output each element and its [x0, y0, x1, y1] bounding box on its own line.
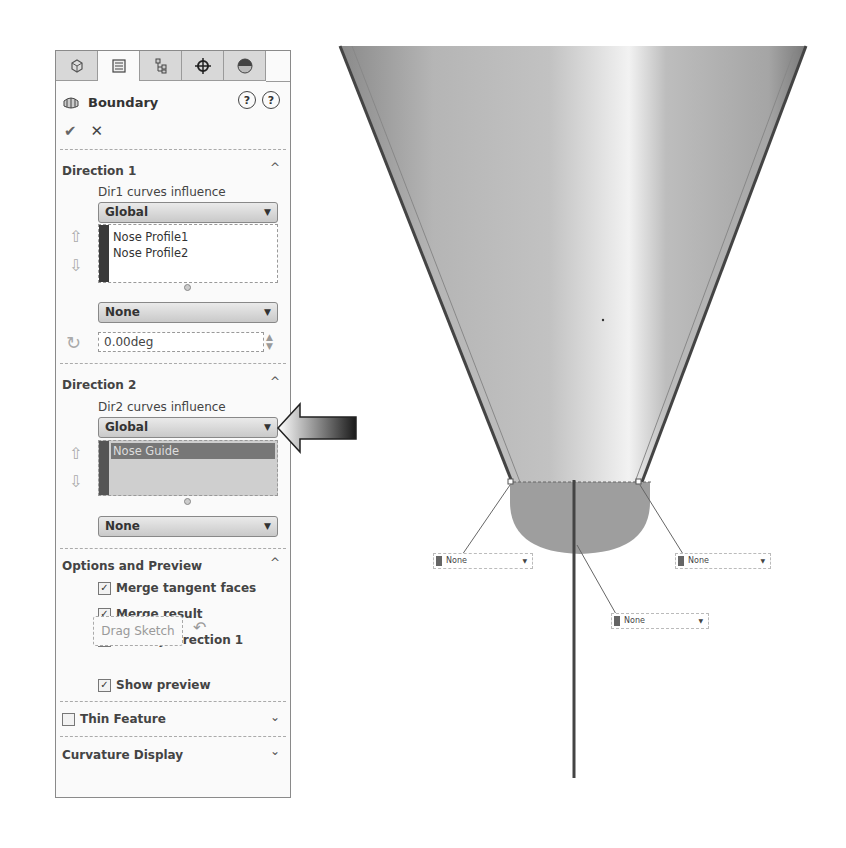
crosshair-icon [194, 57, 212, 75]
collapse-caret-icon[interactable]: ^ [270, 556, 280, 570]
curvature-display-header[interactable]: Curvature Display [62, 748, 183, 762]
merge-tangent-checkbox[interactable]: ✓ Merge tangent faces [98, 581, 256, 595]
tab-display-manager[interactable] [224, 51, 266, 81]
tangency-callout-right[interactable]: None ▼ [675, 553, 771, 569]
undo-drag-icon[interactable]: ↶ [193, 618, 206, 637]
help-icon[interactable]: ? [262, 91, 280, 109]
move-down-icon[interactable]: ⇩ [69, 472, 82, 491]
dir2-tangency-select[interactable]: None ▼ [98, 516, 278, 537]
list-item[interactable]: Nose Profile1 [113, 229, 277, 245]
rotate-angle-icon: ↻ [66, 332, 81, 353]
checkbox-label: Show preview [116, 678, 211, 692]
separator [60, 736, 286, 737]
ok-cancel-row: ✔ ✕ [64, 121, 103, 141]
dir1-tangency-select[interactable]: None ▼ [98, 302, 278, 323]
tab-dimxpert-manager[interactable] [182, 51, 224, 81]
selection-color-bar [99, 441, 109, 495]
dir2-influence-select[interactable]: Global ▼ [98, 417, 278, 438]
color-swatch [436, 556, 442, 566]
expand-caret-icon[interactable]: ⌄ [270, 710, 280, 724]
property-manager-panel: Boundary ? ? ✔ ✕ Direction 1 ^ Dir1 curv… [55, 50, 291, 798]
separator [60, 149, 286, 150]
move-up-icon[interactable]: ⇧ [69, 227, 82, 246]
dir2-influence-value: Global [105, 420, 148, 434]
callout-value: None [624, 616, 645, 625]
move-up-icon[interactable]: ⇧ [69, 444, 82, 463]
dropdown-arrow-icon: ▼ [698, 614, 703, 628]
dir1-influence-label: Dir1 curves influence [98, 185, 226, 199]
collapse-caret-icon[interactable]: ^ [270, 375, 280, 389]
dir1-tangency-value: None [105, 305, 140, 319]
separator [60, 548, 286, 549]
list-item[interactable]: Nose Profile2 [113, 245, 277, 261]
manager-tabs [56, 51, 290, 82]
tab-property-manager[interactable] [98, 51, 140, 81]
dir2-tangency-value: None [105, 519, 140, 533]
tab-spacer [266, 51, 290, 82]
dropdown-arrow-icon: ▼ [522, 554, 527, 568]
dropdown-arrow-icon: ▼ [264, 517, 271, 536]
dir1-angle-input[interactable]: 0.00deg [98, 332, 264, 352]
checkbox-label: Merge tangent faces [116, 581, 256, 595]
tab-feature-manager[interactable] [56, 51, 98, 81]
direction1-header[interactable]: Direction 1 [62, 164, 136, 178]
dropdown-arrow-icon: ▼ [760, 554, 765, 568]
collapse-caret-icon[interactable]: ^ [270, 161, 280, 175]
separator [60, 701, 286, 702]
cancel-button[interactable]: ✕ [91, 122, 104, 140]
appearance-sphere-icon [236, 57, 254, 75]
thin-feature-header[interactable]: Thin Feature [62, 712, 166, 726]
dropdown-arrow-icon: ▼ [264, 418, 271, 437]
move-down-icon[interactable]: ⇩ [69, 256, 82, 275]
dropdown-arrow-icon: ▼ [264, 203, 271, 222]
whats-new-help-icon[interactable]: ? [238, 91, 256, 109]
color-swatch [614, 616, 620, 626]
options-header[interactable]: Options and Preview [62, 559, 202, 573]
color-swatch [678, 556, 684, 566]
checkbox-icon[interactable] [62, 713, 75, 726]
ok-button[interactable]: ✔ [64, 122, 77, 140]
show-preview-checkbox[interactable]: ✓ Show preview [98, 678, 211, 692]
callout-value: None [446, 556, 467, 565]
expand-caret-icon[interactable]: ⌄ [270, 744, 280, 758]
selection-color-bar [99, 225, 109, 282]
dir1-influence-select[interactable]: Global ▼ [98, 202, 278, 223]
dir1-curves-list[interactable]: Nose Profile1 Nose Profile2 [98, 224, 278, 283]
list-item[interactable]: Nose Guide [111, 443, 275, 459]
checkbox-icon[interactable]: ✓ [98, 679, 111, 692]
tangency-callout-bottom[interactable]: None ▼ [611, 613, 709, 629]
direction2-header[interactable]: Direction 2 [62, 378, 136, 392]
dir2-curves-list[interactable]: Nose Guide [98, 440, 278, 496]
section-title: Thin Feature [80, 712, 166, 726]
dir1-influence-value: Global [105, 205, 148, 219]
resize-handle[interactable] [184, 498, 191, 505]
property-list-icon [110, 57, 128, 75]
drag-sketch-button[interactable]: Drag Sketch [93, 616, 183, 646]
feature-title: Boundary [88, 95, 158, 110]
tab-configuration-manager[interactable] [140, 51, 182, 81]
callout-value: None [688, 556, 709, 565]
dir2-influence-label: Dir2 curves influence [98, 400, 226, 414]
boundary-surface-preview [330, 40, 810, 800]
config-tree-icon [152, 57, 170, 75]
graphics-viewport[interactable]: None ▼ None ▼ None ▼ [330, 40, 810, 800]
separator [60, 363, 286, 364]
resize-handle[interactable] [184, 284, 191, 291]
tangency-callout-left[interactable]: None ▼ [433, 553, 533, 569]
dropdown-arrow-icon: ▼ [264, 303, 271, 322]
angle-spinner[interactable]: ▲▼ [266, 333, 273, 351]
part-icon [68, 57, 86, 75]
checkbox-icon[interactable]: ✓ [98, 582, 111, 595]
boundary-feature-icon [62, 93, 80, 111]
